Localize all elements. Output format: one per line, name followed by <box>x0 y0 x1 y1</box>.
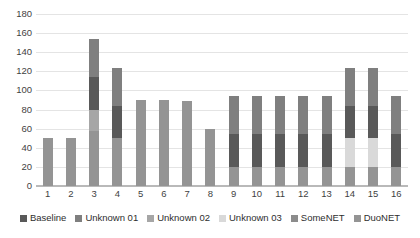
bar-segment <box>252 134 262 166</box>
bar-segment <box>345 138 355 167</box>
x-axis-tick-label: 16 <box>391 189 402 199</box>
bar-stack[interactable] <box>391 96 401 186</box>
x-axis-tick-label: 9 <box>231 189 236 199</box>
x-axis-tick-label: 13 <box>321 189 332 199</box>
bar-segment <box>229 96 239 134</box>
y-axis-tick-label: 160 <box>0 28 32 38</box>
bar-stack[interactable] <box>345 68 355 186</box>
x-axis-tick-label: 1 <box>45 189 50 199</box>
bar-segment <box>322 134 332 166</box>
bar-segment <box>368 68 378 106</box>
x-axis-tick-label: 6 <box>161 189 166 199</box>
bar-segment <box>89 131 99 186</box>
x-axis-tick-label: 8 <box>208 189 213 199</box>
bar-segment <box>275 134 285 166</box>
y-axis-tick-label: 80 <box>0 105 32 115</box>
bar-segment <box>159 100 169 186</box>
bar-stack[interactable] <box>66 138 76 186</box>
x-axis-tick-label: 2 <box>68 189 73 199</box>
bar-segment <box>298 167 308 186</box>
y-axis-labels: 020406080100120140160180 <box>0 14 32 186</box>
y-axis-tick-label: 140 <box>0 47 32 57</box>
bar-stack[interactable] <box>89 39 99 186</box>
bar-segment <box>368 106 378 138</box>
legend-item[interactable]: Unknown 03 <box>219 213 282 223</box>
bar-segment <box>229 134 239 166</box>
bar-segment <box>229 167 239 186</box>
x-axis-labels: 12345678910111213141516 <box>36 189 408 203</box>
legend-swatch-icon <box>75 215 82 222</box>
y-axis-tick-label: 60 <box>0 124 32 134</box>
plot-area <box>36 14 408 186</box>
legend-item[interactable]: Unknown 01 <box>75 213 138 223</box>
legend-label: Unknown 02 <box>157 213 210 223</box>
bar-segment <box>112 138 122 186</box>
bar-stack[interactable] <box>322 96 332 186</box>
bar-stack[interactable] <box>298 96 308 186</box>
x-axis-tick-label: 10 <box>252 189 263 199</box>
legend-item[interactable]: SomeNET <box>291 213 345 223</box>
bar-segment <box>43 138 53 186</box>
legend-item[interactable]: Unknown 02 <box>147 213 210 223</box>
legend-label: Baseline <box>30 213 66 223</box>
bar-segment <box>368 138 378 167</box>
bar-segment <box>252 96 262 134</box>
bar-segment <box>345 167 355 186</box>
bar-stack[interactable] <box>43 138 53 186</box>
bar-segment <box>275 167 285 186</box>
bar-segment <box>89 39 99 77</box>
gridline <box>36 33 408 34</box>
bar-stack[interactable] <box>205 129 215 186</box>
bar-stack[interactable] <box>229 96 239 186</box>
x-axis-tick-label: 12 <box>298 189 309 199</box>
x-axis-tick-label: 11 <box>275 189 285 199</box>
legend-swatch-icon <box>20 215 27 222</box>
legend-swatch-icon <box>291 215 298 222</box>
bar-segment <box>136 100 146 186</box>
y-axis-tick-label: 40 <box>0 143 32 153</box>
bar-segment <box>322 96 332 134</box>
bar-stack[interactable] <box>159 100 169 186</box>
legend-label: Unknown 03 <box>229 213 282 223</box>
x-axis-tick-label: 14 <box>345 189 356 199</box>
y-axis-tick-label: 120 <box>0 67 32 77</box>
bar-segment <box>298 96 308 134</box>
legend-item[interactable]: DuoNET <box>354 213 400 223</box>
bar-stack[interactable] <box>136 100 146 186</box>
bar-segment <box>89 77 99 109</box>
bar-segment <box>345 68 355 106</box>
bar-segment <box>391 167 401 186</box>
bar-segment <box>391 96 401 134</box>
y-axis-tick-label: 100 <box>0 86 32 96</box>
bar-segment <box>89 110 99 131</box>
x-axis-tick-label: 5 <box>138 189 143 199</box>
y-axis-tick-label: 20 <box>0 162 32 172</box>
y-axis-tick-label: 180 <box>0 9 32 19</box>
legend-swatch-icon <box>147 215 154 222</box>
bar-segment <box>368 167 378 186</box>
legend-label: Unknown 01 <box>85 213 138 223</box>
legend-swatch-icon <box>354 215 361 222</box>
bar-segment <box>391 134 401 166</box>
legend-label: DuoNET <box>364 213 400 223</box>
legend-label: SomeNET <box>301 213 345 223</box>
bar-segment <box>205 129 215 186</box>
bar-stack[interactable] <box>368 68 378 186</box>
bar-stack[interactable] <box>275 96 285 186</box>
x-axis-tick-label: 7 <box>184 189 189 199</box>
bar-stack[interactable] <box>112 68 122 186</box>
bar-segment <box>345 106 355 138</box>
legend-item[interactable]: Baseline <box>20 213 66 223</box>
bar-segment <box>298 134 308 166</box>
legend-swatch-icon <box>219 215 226 222</box>
bar-segment <box>252 167 262 186</box>
bar-segment <box>112 68 122 106</box>
x-axis-tick-label: 3 <box>91 189 96 199</box>
y-axis-tick-label: 0 <box>0 181 32 191</box>
x-axis-tick-label: 4 <box>115 189 120 199</box>
gridline <box>36 14 408 15</box>
gridline <box>36 186 408 187</box>
bar-stack[interactable] <box>182 101 192 186</box>
bar-segment <box>275 96 285 134</box>
bar-stack[interactable] <box>252 96 262 186</box>
